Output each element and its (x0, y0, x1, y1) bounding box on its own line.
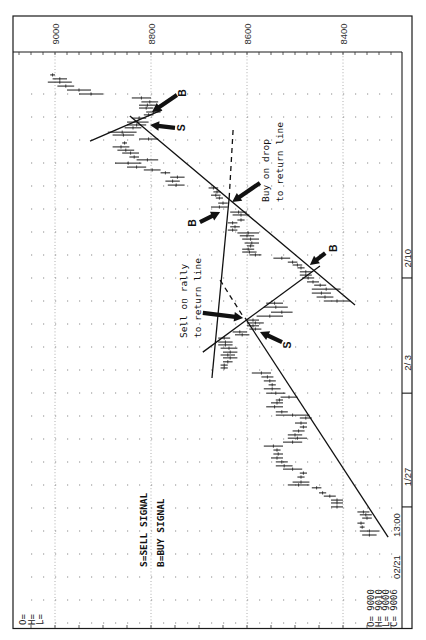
readout-close: C= 9006 (389, 589, 399, 627)
sell-on-rally-note-line1: Sell on rally (178, 263, 189, 338)
readout-date: 02/21 (391, 555, 402, 579)
date-tick-label: 1/27 (402, 468, 413, 487)
date-tick-label: 2/ 3 (402, 355, 413, 371)
date-tick-label: 2/10 (402, 249, 413, 268)
buy-on-drop-note-line2: to return line (274, 122, 285, 202)
buy-signal-label: B (176, 89, 188, 97)
buy-on-drop-note-line1: Buy on drop (260, 139, 271, 202)
legend-entry: B=BUY SIGNAL (155, 498, 166, 567)
sell-signal-label: S (281, 341, 293, 348)
price-chart-figure: 90008800860084001/272/ 32/10 BSBBSSell o… (0, 0, 426, 640)
chart-canvas: 90008800860084001/272/ 32/10 BSBBSSell o… (0, 0, 426, 640)
chart-background (0, 0, 426, 640)
price-tick-label: 8400 (338, 23, 349, 44)
blank-readout: O= H= L= (18, 614, 45, 625)
price-tick-label: 8600 (242, 23, 253, 44)
legend-entry: S=SELL SIGNAL (138, 492, 149, 567)
buy-signal-label: B (186, 219, 198, 227)
sell-on-rally-note-line2: to return line (192, 258, 203, 338)
sell-signal-label: S (175, 124, 187, 131)
price-tick-label: 9000 (50, 23, 61, 44)
blank-low-label: L= (35, 614, 45, 625)
price-tick-label: 8800 (146, 23, 157, 44)
buy-signal-label: B (327, 244, 339, 252)
session-start-time: 13:00 (391, 513, 402, 537)
arrow-shaft (158, 126, 175, 128)
